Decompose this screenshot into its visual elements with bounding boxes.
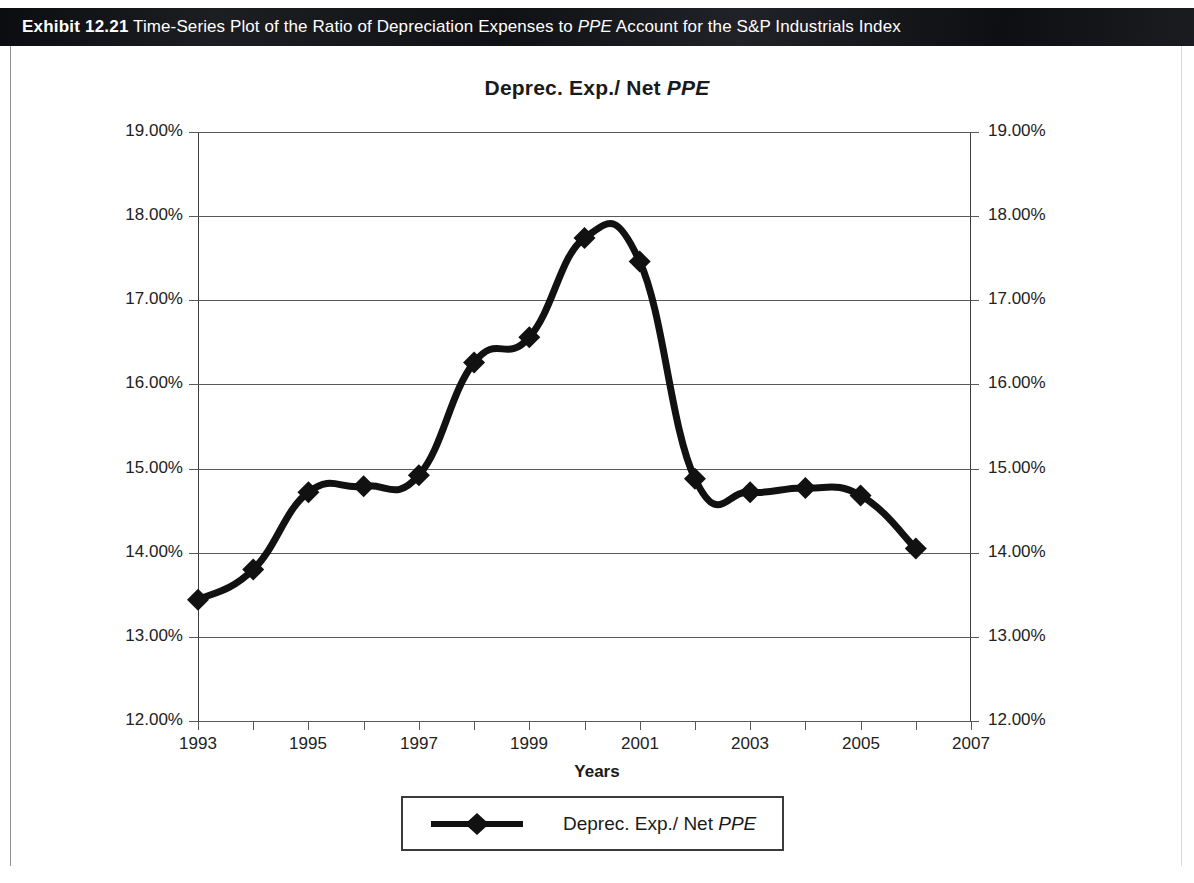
y-axis-label-right: 13.00% (988, 626, 1046, 646)
legend-label: Deprec. Exp./ Net PPE (563, 813, 756, 835)
x-axis-tick (585, 721, 586, 730)
data-point-marker (353, 475, 375, 497)
chart-title: Deprec. Exp./ Net PPE (0, 76, 1194, 100)
legend-label-italic: PPE (718, 813, 756, 834)
y-axis-label-right: 12.00% (988, 710, 1046, 730)
x-axis-tick (198, 721, 199, 730)
y-axis-label-left: 19.00% (125, 121, 183, 141)
x-axis-label: 2003 (731, 734, 769, 754)
x-axis-tick (364, 721, 365, 730)
x-axis-tick (971, 721, 972, 730)
x-axis-tick (308, 721, 309, 730)
y-axis-tick-right (970, 132, 979, 133)
y-axis-tick-right (970, 553, 979, 554)
exhibit-caption-part-1: Time-Series Plot of the Ratio of Depreci… (133, 17, 578, 36)
chart-figure: Deprec. Exp./ Net PPE 19.00%19.00%18.00%… (0, 46, 1194, 883)
data-point-marker (739, 481, 761, 503)
x-axis-label: 2007 (952, 734, 990, 754)
x-axis-title: Years (0, 762, 1194, 782)
y-axis-tick-left (189, 132, 198, 133)
y-axis-label-left: 12.00% (125, 710, 183, 730)
legend-label-plain: Deprec. Exp./ Net (563, 813, 718, 834)
y-axis-label-left: 17.00% (125, 289, 183, 309)
x-axis-label: 2001 (621, 734, 659, 754)
x-axis-tick (419, 721, 420, 730)
x-axis-tick (805, 721, 806, 730)
y-axis-tick-right (970, 216, 979, 217)
chart-title-plain: Deprec. Exp./ Net (485, 76, 667, 99)
y-axis-tick-left (189, 469, 198, 470)
exhibit-caption: Exhibit 12.21 Time-Series Plot of the Ra… (0, 17, 901, 37)
y-axis-label-right: 18.00% (988, 205, 1046, 225)
y-axis-tick-right (970, 469, 979, 470)
y-axis-tick-right (970, 637, 979, 638)
chart-legend: Deprec. Exp./ Net PPE (401, 796, 784, 851)
x-axis-tick (695, 721, 696, 730)
x-axis-tick (916, 721, 917, 730)
y-axis-label-left: 18.00% (125, 205, 183, 225)
x-axis-tick (474, 721, 475, 730)
x-axis-label: 2005 (842, 734, 880, 754)
x-axis-label: 1993 (179, 734, 217, 754)
x-axis-label: 1995 (289, 734, 327, 754)
x-axis-label: 1997 (400, 734, 438, 754)
series-line-deprec-exp-net-ppe (198, 132, 971, 721)
data-point-marker (187, 589, 209, 611)
y-axis-tick-left (189, 384, 198, 385)
y-axis-label-right: 17.00% (988, 289, 1046, 309)
y-axis-tick-left (189, 721, 198, 722)
exhibit-number: Exhibit 12.21 (22, 17, 129, 36)
y-axis-tick-right (970, 300, 979, 301)
y-axis-tick-left (189, 637, 198, 638)
chart-title-italic: PPE (667, 76, 710, 99)
y-axis-label-right: 16.00% (988, 373, 1046, 393)
data-point-marker (794, 477, 816, 499)
x-axis-tick (253, 721, 254, 730)
y-axis-tick-left (189, 300, 198, 301)
x-axis-label: 1999 (510, 734, 548, 754)
x-axis-tick (750, 721, 751, 730)
x-axis-tick (640, 721, 641, 730)
y-axis-label-left: 16.00% (125, 373, 183, 393)
x-axis-tick (529, 721, 530, 730)
y-axis-label-right: 19.00% (988, 121, 1046, 141)
plot-area: 19.00%19.00%18.00%18.00%17.00%17.00%16.0… (198, 132, 971, 721)
y-axis-label-left: 13.00% (125, 626, 183, 646)
y-axis-label-left: 15.00% (125, 458, 183, 478)
y-axis-tick-right (970, 384, 979, 385)
y-axis-label-left: 14.00% (125, 542, 183, 562)
exhibit-caption-italic: PPE (578, 17, 612, 36)
legend-marker-icon (429, 811, 525, 837)
series-path (198, 224, 916, 600)
exhibit-header-band: Exhibit 12.21 Time-Series Plot of the Ra… (0, 8, 1194, 46)
x-axis-tick (861, 721, 862, 730)
y-axis-tick-left (189, 553, 198, 554)
y-axis-label-right: 15.00% (988, 458, 1046, 478)
exhibit-caption-part-2: Account for the S&P Industrials Index (612, 17, 901, 36)
data-point-marker (629, 251, 651, 273)
y-axis-label-right: 14.00% (988, 542, 1046, 562)
y-axis-tick-left (189, 216, 198, 217)
